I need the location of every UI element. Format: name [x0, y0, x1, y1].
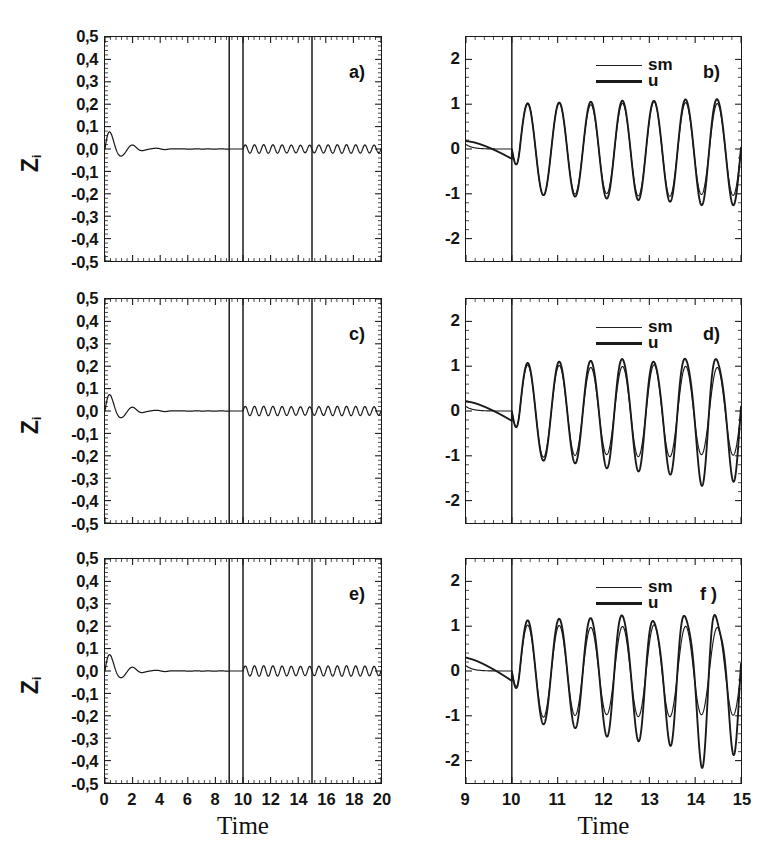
y-tick-label: 0,4	[76, 311, 98, 330]
legend-line-u-icon	[596, 342, 642, 345]
x-tick-label: 12	[262, 790, 280, 809]
x-tick-labels-left-column: 02468101214161820	[104, 790, 382, 812]
figure-root: Zi Zi Zi 0,50,40,30,20,10,0-0,1-0,2-0,3-…	[0, 0, 777, 864]
x-tick-label: 15	[733, 790, 751, 809]
x-tick-label: 9	[460, 790, 469, 809]
y-axis-title-subscript: i	[29, 155, 44, 159]
legend-label-u: u	[648, 334, 658, 351]
legend-line-sm-icon	[596, 65, 642, 66]
y-tick-label: 1	[451, 94, 460, 114]
panel-e-plot-area	[104, 558, 382, 784]
y-tick-label: 0,3	[76, 594, 98, 613]
panel-a-plot-area	[104, 36, 382, 262]
y-tick-label: 0,5	[76, 27, 98, 46]
x-tick-label: 14	[289, 790, 307, 809]
y-tick-label: 0,5	[76, 549, 98, 568]
x-tick-label: 2	[127, 790, 136, 809]
y-tick-label: 2	[451, 49, 460, 69]
panel-b-y-tick-labels: 210-1-2	[432, 36, 460, 262]
panel-b-curve-svg	[466, 37, 741, 261]
panel-c-plot-area	[104, 298, 382, 524]
y-tick-label: 0,0	[76, 140, 98, 159]
y-tick-label: -0,1	[71, 424, 98, 443]
x-tick-label: 10	[234, 790, 252, 809]
y-axis-title-subscript: i	[29, 677, 44, 681]
x-tick-label: 14	[687, 790, 705, 809]
y-tick-label: -0,2	[71, 707, 98, 726]
y-tick-label: -2	[445, 229, 460, 249]
panel-c-y-tick-labels: 0,50,40,30,20,10,0-0,1-0,2-0,3-0,4-0,5	[40, 298, 98, 524]
x-tick-label: 20	[373, 790, 391, 809]
panel-d-curve-svg	[466, 299, 741, 523]
y-tick-label: 0,2	[76, 616, 98, 635]
y-tick-label: 0	[451, 661, 460, 681]
panel-letter-f: f )	[700, 584, 717, 605]
y-tick-label: -0,5	[71, 253, 98, 272]
x-tick-label: 4	[155, 790, 164, 809]
panel-d-y-tick-labels: 210-1-2	[432, 298, 460, 524]
legend-label-u: u	[648, 594, 658, 611]
legend-line-u-icon	[596, 80, 642, 83]
y-tick-label: -0,5	[71, 775, 98, 794]
y-axis-title-panel-c: Zi	[17, 406, 44, 446]
legend-line-sm-icon	[596, 587, 642, 588]
y-axis-title-text: Z	[17, 420, 43, 434]
y-tick-label: 0,2	[76, 356, 98, 375]
y-axis-title-text: Z	[17, 158, 43, 172]
panel-letter-b: b)	[703, 62, 720, 83]
x-tick-label: 11	[549, 790, 566, 809]
y-axis-title-panel-e: Zi	[17, 666, 44, 706]
x-tick-label: 8	[211, 790, 220, 809]
y-tick-label: -2	[445, 751, 460, 771]
y-tick-label: -0,3	[71, 469, 98, 488]
y-tick-label: 0	[451, 139, 460, 159]
y-tick-label: -0,2	[71, 185, 98, 204]
panel-letter-c: c)	[349, 324, 365, 345]
y-tick-label: -0,1	[71, 162, 98, 181]
y-tick-label: 0,0	[76, 402, 98, 421]
panel-a-y-tick-labels: 0,50,40,30,20,10,0-0,1-0,2-0,3-0,4-0,5	[40, 36, 98, 262]
y-tick-label: -0,3	[71, 207, 98, 226]
legend-line-u-icon	[596, 602, 642, 605]
y-axis-title-panel-a: Zi	[17, 144, 44, 184]
y-tick-label: 0,1	[76, 117, 98, 136]
y-tick-label: 0	[451, 401, 460, 421]
y-tick-label: 0,2	[76, 94, 98, 113]
y-tick-label: 0,3	[76, 334, 98, 353]
panel-letter-a: a)	[349, 62, 365, 83]
y-tick-label: -0,4	[71, 752, 98, 771]
y-tick-label: 0,0	[76, 662, 98, 681]
y-tick-label: -1	[445, 706, 460, 726]
y-tick-label: 0,4	[76, 571, 98, 590]
y-tick-label: 0,1	[76, 379, 98, 398]
panel-b-plot-area	[465, 36, 742, 262]
y-axis-title-subscript: i	[29, 417, 44, 421]
x-tick-label: 16	[317, 790, 335, 809]
panel-e-curve-svg	[105, 559, 381, 783]
panel-d-plot-area	[465, 298, 742, 524]
y-tick-label: -0,4	[71, 492, 98, 511]
legend-label-u: u	[648, 72, 658, 89]
y-tick-label: 0,1	[76, 639, 98, 658]
x-tick-label: 6	[183, 790, 192, 809]
x-tick-label: 13	[640, 790, 658, 809]
x-tick-label: 0	[99, 790, 108, 809]
y-tick-label: -0,1	[71, 684, 98, 703]
x-axis-title-left: Time	[104, 812, 382, 840]
y-tick-label: 2	[451, 571, 460, 591]
x-tick-label: 10	[502, 790, 520, 809]
x-axis-title-right: Time	[465, 812, 742, 840]
panel-letter-e: e)	[349, 584, 365, 605]
y-tick-label: 0,5	[76, 289, 98, 308]
y-tick-label: -0,5	[71, 515, 98, 534]
panel-a-curve-svg	[105, 37, 381, 261]
panel-letter-d: d)	[703, 324, 720, 345]
y-tick-label: 0,3	[76, 72, 98, 91]
panel-f-y-tick-labels: 210-1-2	[432, 558, 460, 784]
y-tick-label: -2	[445, 491, 460, 511]
panel-e-y-tick-labels: 0,50,40,30,20,10,0-0,1-0,2-0,3-0,4-0,5	[40, 558, 98, 784]
x-tick-label: 18	[345, 790, 363, 809]
panel-c-curve-svg	[105, 299, 381, 523]
x-tick-labels-right-column: 9101112131415	[465, 790, 742, 812]
y-axis-title-text: Z	[17, 680, 43, 694]
